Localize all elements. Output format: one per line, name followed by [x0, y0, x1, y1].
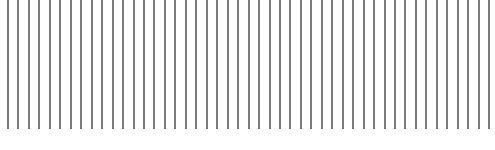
vertical-line [415, 0, 417, 129]
vertical-line [394, 0, 396, 129]
vertical-line [310, 0, 312, 129]
vertical-line [133, 0, 135, 129]
vertical-line [174, 0, 176, 129]
vertical-line [185, 0, 187, 129]
vertical-line [143, 0, 145, 129]
vertical-line [258, 0, 260, 129]
vertical-line [237, 0, 239, 129]
vertical-line [101, 0, 103, 129]
vertical-line [38, 0, 40, 129]
vertical-line [457, 0, 459, 129]
vertical-line [478, 0, 480, 129]
vertical-line [59, 0, 61, 129]
vertical-line [488, 0, 490, 129]
vertical-line [7, 0, 9, 129]
vertical-line [227, 0, 229, 129]
vertical-line [269, 0, 271, 129]
vertical-line-pattern [0, 0, 495, 150]
vertical-line [446, 0, 448, 129]
vertical-line [436, 0, 438, 129]
vertical-line [70, 0, 72, 129]
vertical-line [153, 0, 155, 129]
vertical-line [342, 0, 344, 129]
vertical-line [384, 0, 386, 129]
vertical-line [404, 0, 406, 129]
vertical-line [91, 0, 93, 129]
vertical-line [80, 0, 82, 129]
vertical-line [216, 0, 218, 129]
vertical-line [467, 0, 469, 129]
vertical-line [122, 0, 124, 129]
vertical-line [49, 0, 51, 129]
vertical-line [206, 0, 208, 129]
vertical-line [112, 0, 114, 129]
vertical-line [279, 0, 281, 129]
vertical-line [28, 0, 30, 129]
vertical-line [352, 0, 354, 129]
vertical-line [300, 0, 302, 129]
vertical-line [363, 0, 365, 129]
vertical-line [373, 0, 375, 129]
vertical-line [17, 0, 19, 129]
vertical-line [425, 0, 427, 129]
vertical-line [321, 0, 323, 129]
vertical-line [289, 0, 291, 129]
vertical-line [195, 0, 197, 129]
vertical-line [164, 0, 166, 129]
vertical-line [248, 0, 250, 129]
vertical-line [331, 0, 333, 129]
